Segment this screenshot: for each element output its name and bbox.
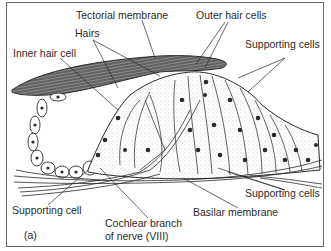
label-tectorial-membrane: Tectorial membrane: [76, 9, 168, 21]
label-supporting-cell-left: Supporting cell: [12, 204, 81, 216]
panel-label: (a): [24, 229, 37, 241]
left-supporting-cell-chain: [28, 93, 97, 178]
label-supporting-cells-bottom: Supporting cells: [245, 187, 320, 199]
label-supporting-cells-top: Supporting cells: [245, 38, 320, 50]
label-inner-hair-cell: Inner hair cell: [13, 47, 76, 59]
label-cochlear-branch-line2: of nerve (VIII): [105, 230, 169, 242]
label-cochlear-branch-line1: Cochlear branch: [105, 217, 182, 229]
label-basilar-membrane: Basilar membrane: [193, 206, 278, 218]
label-outer-hair-cells: Outer hair cells: [196, 9, 267, 21]
label-hairs: Hairs: [75, 27, 100, 39]
